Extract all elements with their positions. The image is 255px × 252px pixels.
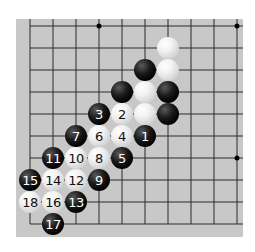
white-stone[interactable]: 8 <box>88 147 110 169</box>
black-stone[interactable] <box>157 103 179 125</box>
black-stone[interactable]: 15 <box>19 169 41 191</box>
white-stone[interactable]: 12 <box>65 169 87 191</box>
white-stone[interactable]: 10 <box>65 147 87 169</box>
black-stone[interactable] <box>111 81 133 103</box>
black-stone[interactable]: 1 <box>134 125 156 147</box>
black-stone[interactable]: 9 <box>88 169 110 191</box>
black-stone[interactable]: 13 <box>65 191 87 213</box>
black-stone[interactable]: 11 <box>42 147 64 169</box>
white-stone[interactable] <box>157 37 179 59</box>
white-stone[interactable]: 18 <box>19 191 41 213</box>
white-stone[interactable] <box>134 103 156 125</box>
black-stone[interactable]: 17 <box>42 213 64 235</box>
white-stone[interactable] <box>157 59 179 81</box>
star-point <box>235 156 240 161</box>
white-stone[interactable]: 16 <box>42 191 64 213</box>
white-stone[interactable]: 6 <box>88 125 110 147</box>
star-point <box>235 24 240 29</box>
white-stone[interactable]: 4 <box>111 125 133 147</box>
black-stone[interactable]: 3 <box>88 103 110 125</box>
black-stone[interactable]: 7 <box>65 125 87 147</box>
black-stone[interactable]: 5 <box>111 147 133 169</box>
star-point <box>97 24 102 29</box>
white-stone[interactable] <box>134 81 156 103</box>
black-stone[interactable] <box>157 81 179 103</box>
white-stone[interactable]: 2 <box>111 103 133 125</box>
black-stone[interactable] <box>134 59 156 81</box>
white-stone[interactable]: 14 <box>42 169 64 191</box>
